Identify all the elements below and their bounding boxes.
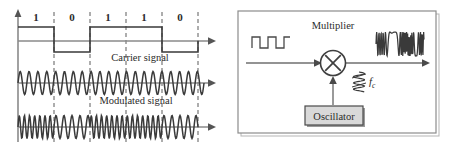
carrier-signal bbox=[18, 72, 216, 95]
bit-label-2: 1 bbox=[105, 11, 111, 23]
modulated-signal bbox=[18, 116, 216, 139]
bit-label-3: 1 bbox=[141, 11, 147, 23]
figure-svg: 1 0 1 1 0 Carrier signal bbox=[0, 0, 458, 149]
modulated-signal-label: Modulated signal bbox=[99, 95, 172, 106]
oscillator-label: Oscillator bbox=[313, 111, 355, 122]
right-panel: Multiplier fc Oscillator bbox=[238, 11, 439, 136]
carrier-signal-label: Carrier signal bbox=[111, 52, 169, 63]
bit-labels: 1 0 1 1 0 bbox=[33, 11, 183, 23]
multiplier-label: Multiplier bbox=[312, 20, 355, 31]
bit-label-0: 1 bbox=[33, 11, 39, 23]
figure-container: 1 0 1 1 0 Carrier signal bbox=[0, 0, 458, 149]
bit-label-1: 0 bbox=[69, 11, 75, 23]
multiplier-symbol bbox=[321, 51, 346, 76]
binary-data-signal bbox=[18, 27, 216, 52]
left-panel: 1 0 1 1 0 Carrier signal bbox=[15, 9, 216, 142]
oscillator-block[interactable]: Oscillator bbox=[305, 106, 365, 127]
bit-label-4: 0 bbox=[177, 11, 183, 23]
